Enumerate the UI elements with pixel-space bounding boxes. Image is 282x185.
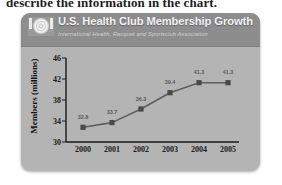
x-tick-label-2005: 2005 <box>213 145 243 154</box>
x-tick-label-2000: 2000 <box>68 145 98 154</box>
point-label-2002: 36.3 <box>128 96 154 102</box>
x-tick-label-2003: 2003 <box>155 145 185 154</box>
chart-subtitle: International Health, Racquet and Sports… <box>58 30 256 39</box>
chart-card-header: U.S. Health Club Membership Growth Inter… <box>21 13 260 47</box>
x-tick-label-2001: 2001 <box>97 145 127 154</box>
point-label-2004: 41.3 <box>186 69 212 75</box>
x-tick-label-2002: 2002 <box>126 145 156 154</box>
chart-card: U.S. Health Club Membership Growth Inter… <box>21 13 260 170</box>
point-label-2001: 33.7 <box>99 109 125 115</box>
point-label-2005: 41.3 <box>215 69 241 75</box>
point-label-2003: 39.4 <box>157 79 183 85</box>
chart-header-text: U.S. Health Club Membership Growth Inter… <box>58 15 256 39</box>
ihrsa-ring-logo-icon <box>28 17 54 36</box>
page-caption-fragment: describe the information in the chart. <box>6 0 282 9</box>
point-label-2000: 32.8 <box>70 114 96 120</box>
chart-plot-body: Members (millions) 46 42 38 34 30 <box>21 47 260 170</box>
chart-title: U.S. Health Club Membership Growth <box>58 15 256 28</box>
x-tick-label-2004: 2004 <box>184 145 214 154</box>
